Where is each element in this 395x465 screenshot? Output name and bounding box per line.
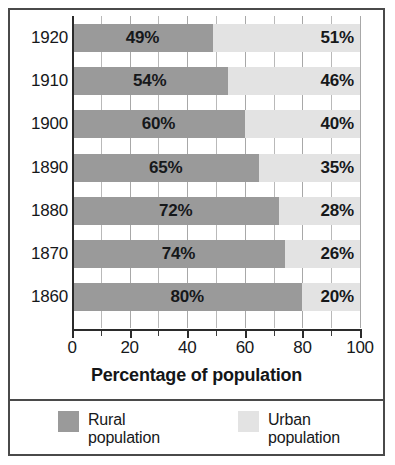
legend-item-urban: Urban population (238, 411, 340, 447)
x-axis-tick (187, 331, 189, 338)
bar-value-label-urban: 40% (321, 110, 354, 138)
x-axis-line (72, 329, 362, 331)
x-axis-tick-label: 60 (222, 338, 268, 358)
x-axis-tick (274, 331, 275, 336)
x-axis-tick (72, 331, 74, 338)
bar-segment-rural: 65% (72, 154, 259, 182)
bar-segment-rural: 49% (72, 24, 213, 52)
bar-value-label-rural: 72% (72, 197, 279, 225)
x-axis-tick-label: 80 (279, 338, 325, 358)
x-axis-tick (130, 331, 132, 338)
x-axis-tick (216, 331, 217, 336)
category-label-1910: 1910 (10, 71, 68, 91)
bar-value-label-urban: 51% (321, 24, 354, 52)
bar-segment-rural: 72% (72, 197, 279, 225)
category-label-1880: 1880 (10, 201, 68, 221)
chart-bar-row: 60%40% (72, 110, 360, 138)
chart-bar-row: 80%20% (72, 283, 360, 311)
bar-value-label-urban: 20% (321, 283, 354, 311)
bar-segment-urban: 51% (213, 24, 360, 52)
legend-label-urban-line1: Urban (268, 411, 340, 429)
bar-value-label-rural: 49% (72, 24, 213, 52)
bar-value-label-rural: 74% (72, 240, 285, 268)
bar-value-label-urban: 35% (321, 154, 354, 182)
chart-legend: Rural population Urban population (10, 401, 383, 454)
x-axis-tick-label: 0 (49, 338, 95, 358)
chart-bar-row: 65%35% (72, 154, 360, 182)
y-axis-line (72, 16, 74, 330)
x-axis-tick (101, 331, 102, 336)
x-axis-tick (245, 331, 247, 338)
category-label-1890: 1890 (10, 158, 68, 178)
chart-plot-region: 49%51%54%46%60%40%65%35%72%28%74%26%80%2… (10, 10, 383, 398)
legend-label-urban: Urban population (268, 411, 340, 447)
x-axis-tick (360, 331, 362, 338)
bar-segment-urban: 28% (279, 197, 360, 225)
plot-area: 49%51%54%46%60%40%65%35%72%28%74%26%80%2… (72, 16, 360, 328)
category-label-1920: 1920 (10, 28, 68, 48)
legend-swatch-urban-icon (238, 411, 259, 432)
category-label-1900: 1900 (10, 114, 68, 134)
legend-label-rural: Rural population (88, 411, 160, 447)
legend-swatch-rural-icon (58, 411, 79, 432)
chart-bar-row: 54%46% (72, 67, 360, 95)
bar-value-label-rural: 54% (72, 67, 228, 95)
bar-segment-urban: 26% (285, 240, 360, 268)
bar-segment-rural: 74% (72, 240, 285, 268)
bar-segment-urban: 35% (259, 154, 360, 182)
category-label-1870: 1870 (10, 244, 68, 264)
bar-segment-rural: 60% (72, 110, 245, 138)
bar-segment-urban: 40% (245, 110, 360, 138)
legend-item-rural: Rural population (58, 411, 160, 447)
x-axis-tick-label: 100 (337, 338, 383, 358)
x-axis-tick (302, 331, 304, 338)
bar-segment-urban: 20% (302, 283, 360, 311)
legend-label-rural-line2: population (88, 429, 160, 447)
bar-value-label-rural: 80% (72, 283, 302, 311)
chart-bar-row: 72%28% (72, 197, 360, 225)
bar-value-label-urban: 46% (321, 67, 354, 95)
legend-label-rural-line1: Rural (88, 411, 160, 429)
bar-segment-rural: 80% (72, 283, 302, 311)
bar-value-label-rural: 60% (72, 110, 245, 138)
chart-figure: 49%51%54%46%60%40%65%35%72%28%74%26%80%2… (8, 8, 385, 456)
bar-value-label-urban: 26% (321, 240, 354, 268)
chart-bar-row: 74%26% (72, 240, 360, 268)
bar-segment-urban: 46% (228, 67, 360, 95)
category-label-1860: 1860 (10, 287, 68, 307)
bar-value-label-rural: 65% (72, 154, 259, 182)
legend-label-urban-line2: population (268, 429, 340, 447)
x-axis-tick (331, 331, 332, 336)
bar-value-label-urban: 28% (321, 197, 354, 225)
x-axis-tick (158, 331, 159, 336)
chart-bar-row: 49%51% (72, 24, 360, 52)
bar-segment-rural: 54% (72, 67, 228, 95)
x-axis-tick-label: 40 (164, 338, 210, 358)
x-axis-tick-label: 20 (107, 338, 153, 358)
gridline (360, 16, 361, 328)
x-axis-title: Percentage of population (10, 365, 383, 386)
